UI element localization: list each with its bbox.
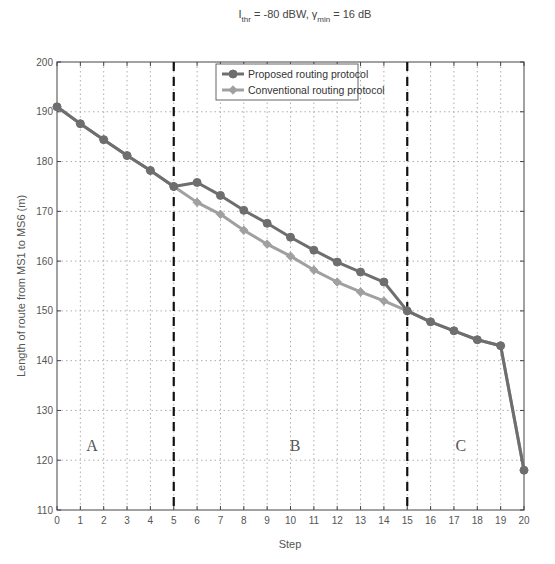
data-point	[380, 278, 388, 286]
x-tick-label: 12	[332, 515, 344, 526]
y-tick-label: 190	[36, 106, 53, 117]
data-point	[310, 246, 318, 254]
x-tick-label: 10	[285, 515, 297, 526]
x-tick-label: 0	[54, 515, 60, 526]
data-point	[520, 466, 528, 474]
y-tick-label: 180	[36, 156, 53, 167]
data-point	[473, 336, 481, 344]
x-tick-label: 11	[309, 515, 320, 526]
x-tick-label: 14	[378, 515, 390, 526]
legend-label: Proposed routing protocol	[248, 68, 368, 80]
y-tick-label: 200	[36, 57, 53, 68]
data-point	[240, 206, 248, 214]
data-point	[123, 152, 131, 160]
data-point	[357, 268, 365, 276]
region-label-c: C	[456, 437, 467, 454]
y-axis-title: Length of route from MS1 to MS6 (m)	[15, 195, 27, 377]
data-point	[170, 182, 178, 190]
x-tick-label: 5	[171, 515, 177, 526]
y-tick-label: 160	[36, 256, 53, 267]
legend-marker	[229, 70, 237, 78]
x-tick-label: 19	[495, 515, 507, 526]
region-labels: ABC	[86, 437, 466, 454]
x-tick-label: 20	[518, 515, 530, 526]
x-tick-label: 7	[218, 515, 224, 526]
x-tick-label: 4	[148, 515, 154, 526]
legend: Proposed routing protocolConventional ro…	[216, 64, 385, 100]
x-tick-label: 1	[78, 515, 84, 526]
legend-label: Conventional routing protocol	[248, 84, 385, 96]
x-tick-label: 9	[264, 515, 270, 526]
chart-title: Ithr = -80 dBW, γmin = 16 dB	[239, 8, 372, 24]
data-point	[427, 318, 435, 326]
data-point	[287, 233, 295, 241]
data-point	[450, 327, 458, 335]
line-chart: Ithr = -80 dBW, γmin = 16 dB 01234567891…	[0, 0, 555, 564]
data-point	[263, 219, 271, 227]
x-tick-label: 18	[472, 515, 484, 526]
x-tick-label: 8	[241, 515, 247, 526]
data-point	[76, 120, 84, 128]
x-tick-label: 2	[101, 515, 107, 526]
data-point	[216, 191, 224, 199]
x-axis-title: Step	[279, 538, 302, 550]
data-point	[53, 103, 61, 111]
data-point	[193, 178, 201, 186]
data-point	[356, 288, 364, 296]
y-tick-label: 140	[36, 355, 53, 366]
data-point	[380, 297, 388, 305]
x-tick-label: 6	[194, 515, 200, 526]
data-point	[333, 258, 341, 266]
y-tick-label: 150	[36, 305, 53, 316]
data-point	[100, 136, 108, 144]
x-tick-label: 16	[425, 515, 437, 526]
y-tick-label: 110	[37, 505, 53, 516]
region-label-a: A	[86, 437, 98, 454]
x-axis: 01234567891011121314151617181920	[54, 62, 530, 526]
y-tick-label: 130	[36, 405, 53, 416]
y-axis: 110120130140150160170180190200	[36, 57, 524, 516]
x-tick-label: 3	[124, 515, 130, 526]
data-point	[497, 342, 505, 350]
region-label-b: B	[290, 437, 301, 454]
x-tick-label: 15	[402, 515, 414, 526]
data-point	[403, 307, 411, 315]
x-tick-label: 13	[355, 515, 367, 526]
data-point	[146, 167, 154, 175]
y-tick-label: 170	[36, 206, 53, 217]
x-tick-label: 17	[448, 515, 460, 526]
y-tick-label: 120	[36, 455, 53, 466]
